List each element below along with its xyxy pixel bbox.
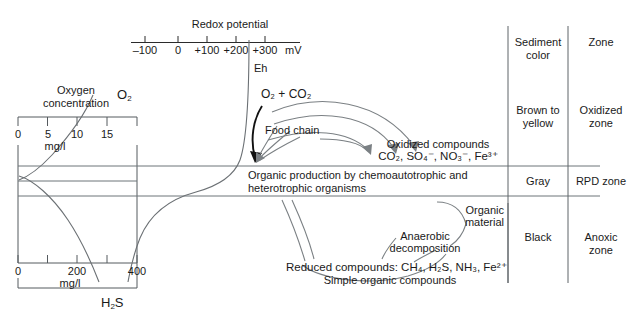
redox-axis-group bbox=[131, 36, 300, 43]
eh-curve-label: Eh bbox=[254, 62, 267, 75]
table-row-2-zone-line1: Anoxic bbox=[570, 231, 632, 244]
oxygen-bottom-tick-0: 0 bbox=[7, 265, 29, 278]
redox-tick-minus100: –100 bbox=[127, 44, 163, 57]
redox-axis-unit: mV bbox=[285, 44, 302, 57]
table-row-0-color-line1: Brown to bbox=[508, 104, 568, 117]
table-row-2-zone-line2: zone bbox=[570, 244, 632, 257]
oxygen-top-tick-0: 0 bbox=[7, 128, 29, 141]
eh-curve bbox=[128, 40, 249, 282]
reduced-compounds-label: Reduced compounds: CH₄, H₂S, NH₃, Fe²⁺ bbox=[286, 261, 507, 274]
oxygen-title-line1: Oxygen bbox=[20, 84, 132, 97]
oxidized-compounds-formulas: CO₂, SO₄⁻, NO₃⁻, Fe³⁺ bbox=[348, 150, 528, 163]
table-header-sediment-color-line1: Sediment bbox=[510, 36, 566, 49]
table-row-2-color-line1: Black bbox=[508, 231, 568, 244]
h2s-curve-label: H2S bbox=[101, 296, 124, 313]
table-header-zone: Zone bbox=[570, 36, 632, 49]
organic-production-line2: heterotrophic organisms bbox=[248, 182, 366, 195]
redox-tick-0: 0 bbox=[164, 44, 192, 57]
redox-axis-title: Redox potential bbox=[160, 18, 300, 31]
table-row-1-zone-line1: RPD zone bbox=[570, 175, 632, 188]
figure-canvas: Redox potential –100 0 +100 +200 +300 mV… bbox=[0, 0, 634, 329]
food-chain-label: Food chain bbox=[265, 124, 319, 137]
o2-curve-label: O2 bbox=[117, 88, 132, 105]
redox-tick-plus300: +300 bbox=[247, 44, 283, 57]
anaerobic-line2: decomposition bbox=[370, 242, 480, 255]
input-arrow-dark bbox=[250, 106, 262, 163]
simple-organic-label: Simple organic compounds bbox=[286, 274, 494, 287]
table-row-0-zone-line2: zone bbox=[570, 117, 632, 130]
organic-production-line1: Organic production by chemoautotrophic a… bbox=[248, 169, 468, 182]
table-row-0-zone-line1: Oxidized bbox=[570, 104, 632, 117]
oxygen-top-axis-unit: mg/l bbox=[35, 140, 75, 153]
table-row-1-color-line1: Gray bbox=[508, 175, 568, 188]
oxygen-top-tick-15: 15 bbox=[96, 128, 118, 141]
oxygen-bottom-axis-unit: mg/l bbox=[50, 277, 90, 290]
oxygen-bottom-tick-400: 400 bbox=[119, 265, 155, 278]
organic-material-line2: material bbox=[408, 216, 504, 229]
table-header-sediment-color-line2: color bbox=[510, 49, 566, 62]
table-row-0-color-line2: yellow bbox=[508, 117, 568, 130]
inputs-label: O₂ + CO₂ bbox=[261, 88, 311, 101]
